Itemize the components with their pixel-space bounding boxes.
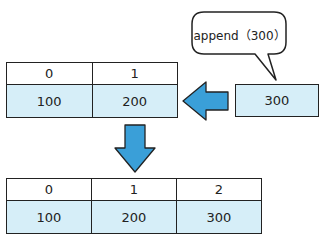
index-row: 0 1 <box>7 63 178 85</box>
down-arrow-icon <box>115 125 155 172</box>
value-cell: 100 <box>7 85 93 118</box>
speech-bubble-text: append（300） <box>192 16 287 52</box>
value-cell: 100 <box>7 201 92 234</box>
value-row: 100 200 300 <box>7 201 262 234</box>
after-array-table: 0 1 2 100 200 300 <box>6 178 262 234</box>
index-row: 0 1 2 <box>7 179 262 201</box>
new-element-box: 300 <box>235 84 319 117</box>
index-cell: 0 <box>7 63 93 85</box>
left-arrow-icon <box>183 82 228 120</box>
index-cell: 0 <box>7 179 92 201</box>
value-cell: 200 <box>92 201 177 234</box>
index-cell: 1 <box>92 63 178 85</box>
value-row: 100 200 <box>7 85 178 118</box>
index-cell: 1 <box>92 179 177 201</box>
index-cell: 2 <box>177 179 262 201</box>
before-array-table: 0 1 100 200 <box>6 62 178 118</box>
value-cell: 300 <box>177 201 262 234</box>
value-cell: 200 <box>92 85 178 118</box>
